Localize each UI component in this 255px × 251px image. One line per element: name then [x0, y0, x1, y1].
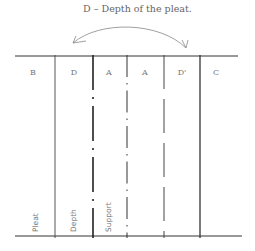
column-label-dprime: D' [178, 68, 187, 77]
column-label-c: C [213, 68, 219, 77]
pleat-diagram: B D A A D' C Pleat Depth Support [0, 0, 255, 251]
column-label-a1: A [105, 68, 112, 77]
column-label-a2: A [141, 68, 148, 77]
column-label-d: D [71, 68, 77, 77]
label-support: Support [104, 202, 113, 232]
fold-arrow-icon [73, 27, 188, 48]
label-depth: Depth [69, 209, 78, 232]
label-pleat: Pleat [31, 213, 40, 232]
column-label-b: B [30, 68, 36, 77]
